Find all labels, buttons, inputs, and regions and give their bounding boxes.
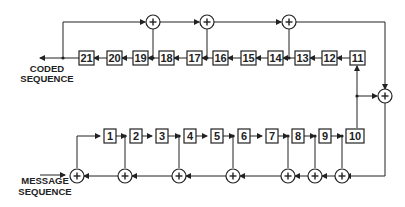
register-9: 9 — [319, 129, 331, 143]
coded-sequence-label-line2: SEQUENCE — [20, 73, 73, 84]
register-1: 1 — [104, 129, 116, 143]
register-6: 6 — [238, 129, 250, 143]
adder-bottom-6 — [335, 169, 349, 183]
register-12: 12 — [322, 51, 337, 65]
adder-bottom-5 — [308, 169, 322, 183]
svg-text:3: 3 — [159, 130, 165, 142]
adder-top-3 — [282, 15, 296, 29]
register-4: 4 — [184, 129, 196, 143]
message-sequence-label-line2: SEQUENCE — [18, 186, 71, 197]
register-20: 20 — [107, 51, 122, 65]
register-16: 16 — [213, 51, 228, 65]
register-19: 19 — [133, 51, 148, 65]
svg-text:9: 9 — [322, 130, 328, 142]
svg-text:21: 21 — [80, 52, 92, 64]
svg-text:12: 12 — [323, 52, 335, 64]
register-3: 3 — [156, 129, 168, 143]
message-sequence-label-line1: MESSAGE — [21, 175, 69, 186]
register-10: 10 — [346, 129, 364, 143]
adder-right — [378, 89, 392, 103]
adder-top-2 — [200, 15, 214, 29]
svg-text:18: 18 — [160, 52, 172, 64]
svg-text:5: 5 — [214, 130, 220, 142]
svg-text:19: 19 — [134, 52, 146, 64]
svg-text:17: 17 — [188, 52, 200, 64]
svg-text:4: 4 — [187, 130, 194, 142]
register-5: 5 — [211, 129, 223, 143]
adder-bottom-1 — [118, 169, 132, 183]
adder-bottom-4 — [281, 169, 295, 183]
svg-text:7: 7 — [269, 130, 275, 142]
svg-text:2: 2 — [133, 130, 139, 142]
register-7: 7 — [266, 129, 278, 143]
adder-input — [70, 169, 84, 183]
svg-text:15: 15 — [242, 52, 254, 64]
register-14: 14 — [268, 51, 283, 65]
register-8: 8 — [292, 129, 304, 143]
shift-register-diagram: 21 20 19 18 17 16 15 14 13 12 11 1 2 3 4… — [0, 0, 405, 207]
adder-bottom-2 — [172, 169, 186, 183]
svg-text:6: 6 — [241, 130, 247, 142]
svg-text:11: 11 — [352, 52, 364, 64]
svg-text:14: 14 — [269, 52, 282, 64]
register-17: 17 — [187, 51, 202, 65]
svg-text:13: 13 — [296, 52, 308, 64]
register-11: 11 — [350, 51, 365, 65]
adder-top-1 — [146, 15, 160, 29]
svg-text:20: 20 — [108, 52, 120, 64]
svg-text:10: 10 — [349, 130, 361, 142]
adder-bottom-3 — [226, 169, 240, 183]
svg-text:1: 1 — [107, 130, 113, 142]
svg-text:8: 8 — [295, 130, 301, 142]
register-15: 15 — [241, 51, 256, 65]
register-2: 2 — [130, 129, 142, 143]
register-13: 13 — [295, 51, 310, 65]
register-18: 18 — [159, 51, 174, 65]
register-21: 21 — [79, 51, 94, 65]
svg-text:16: 16 — [214, 52, 226, 64]
